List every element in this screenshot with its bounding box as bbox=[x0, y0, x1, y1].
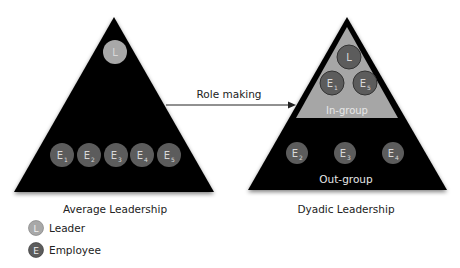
svg-text:E: E bbox=[327, 78, 333, 89]
average-employee-nodes: E 1 E 2 E 3 E 4 E 5 bbox=[50, 143, 181, 167]
svg-text:E: E bbox=[388, 148, 394, 159]
in-group-leader-node: L bbox=[337, 45, 361, 69]
svg-text:1: 1 bbox=[64, 156, 68, 163]
out-group-nodes: E 2 E 3 E 4 bbox=[286, 142, 404, 164]
svg-text:4: 4 bbox=[395, 154, 399, 161]
svg-text:E: E bbox=[164, 150, 170, 161]
leader-letter: L bbox=[112, 47, 118, 58]
out-group-employee-e4: E 4 bbox=[382, 142, 404, 164]
out-group-employee-e3: E 3 bbox=[334, 142, 356, 164]
svg-text:L: L bbox=[346, 52, 352, 63]
employee-node-e1: E 1 bbox=[50, 143, 74, 167]
average-leader-node: L bbox=[103, 40, 127, 64]
svg-text:3: 3 bbox=[118, 156, 122, 163]
average-leadership-title: Average Leadership bbox=[63, 203, 167, 215]
svg-text:E: E bbox=[340, 148, 346, 159]
svg-text:L: L bbox=[33, 224, 38, 234]
leadership-diagram: L E 1 E 2 E 3 E 4 bbox=[0, 0, 460, 268]
legend-label-leader: Leader bbox=[49, 222, 86, 234]
svg-text:2: 2 bbox=[299, 154, 303, 161]
svg-text:5: 5 bbox=[171, 156, 175, 163]
arrow-head-icon bbox=[288, 102, 296, 109]
dyadic-leadership-pyramid: L E 1 E 5 In-group E 2 E 3 bbox=[248, 17, 447, 215]
legend-item-leader: L Leader bbox=[29, 221, 86, 236]
svg-text:E: E bbox=[111, 150, 117, 161]
average-leadership-pyramid: L E 1 E 2 E 3 E 4 bbox=[14, 17, 214, 215]
legend: L Leader E Employee bbox=[29, 221, 102, 258]
svg-text:E: E bbox=[292, 148, 298, 159]
in-group-label: In-group bbox=[326, 105, 368, 116]
svg-text:E: E bbox=[137, 150, 143, 161]
out-group-label: Out-group bbox=[319, 173, 373, 185]
svg-text:1: 1 bbox=[334, 84, 338, 91]
legend-item-employee: E Employee bbox=[29, 243, 102, 258]
svg-text:5: 5 bbox=[367, 84, 371, 91]
svg-text:E: E bbox=[33, 246, 39, 256]
employee-node-e3: E 3 bbox=[104, 143, 128, 167]
svg-text:4: 4 bbox=[144, 156, 148, 163]
role-making-label: Role making bbox=[197, 88, 262, 100]
svg-text:E: E bbox=[57, 150, 63, 161]
svg-text:E: E bbox=[84, 150, 90, 161]
employee-node-e4: E 4 bbox=[130, 143, 154, 167]
dyadic-leadership-title: Dyadic Leadership bbox=[297, 203, 394, 215]
employee-node-e5: E 5 bbox=[157, 143, 181, 167]
svg-text:3: 3 bbox=[347, 154, 351, 161]
svg-text:2: 2 bbox=[91, 156, 95, 163]
role-making-arrow: Role making bbox=[166, 88, 296, 109]
legend-label-employee: Employee bbox=[49, 244, 101, 256]
svg-text:E: E bbox=[360, 78, 366, 89]
employee-node-e2: E 2 bbox=[77, 143, 101, 167]
in-group-employee-e5: E 5 bbox=[353, 71, 377, 95]
in-group-employee-e1: E 1 bbox=[320, 71, 344, 95]
out-group-employee-e2: E 2 bbox=[286, 142, 308, 164]
